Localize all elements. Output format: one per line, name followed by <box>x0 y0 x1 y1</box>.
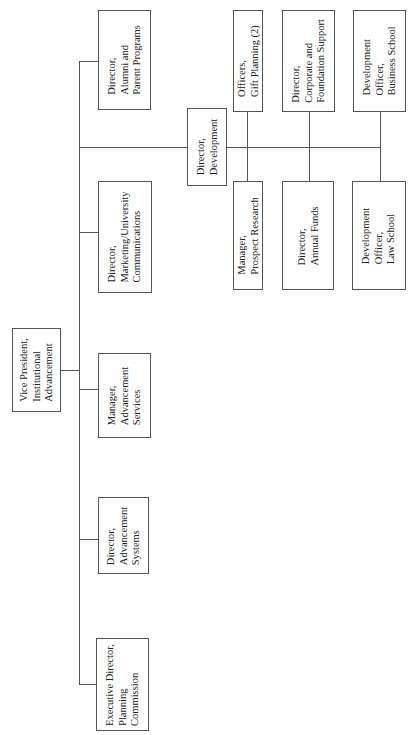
dev-vert-2 <box>309 112 310 182</box>
box-vice-president: Vice President, Institutional Advancemen… <box>12 328 61 412</box>
connector-marketing <box>79 232 98 233</box>
dev-horizontal <box>227 147 368 148</box>
box-director-development: Director, Development <box>187 108 227 186</box>
box-advancement-systems: Director, Advancement Systems <box>98 497 149 574</box>
box-business-school: Development Officer, Business School <box>353 10 406 112</box>
box-alumni-parent-programs: Director, Alumni and Parent Programs <box>98 10 151 110</box>
connector-advsvc <box>79 389 98 390</box>
box-law-school: Development Officer, Law School <box>352 181 406 290</box>
dev-horizontal-ext <box>368 147 380 148</box>
connector-alumni <box>79 61 98 62</box>
connector-advsys <box>79 539 98 540</box>
box-corporate-foundation: Director, Corporate and Foundation Suppo… <box>282 10 335 112</box>
box-prospect-research: Manager, Prospect Research <box>233 181 263 290</box>
main-trunk <box>79 61 80 685</box>
vp-connector <box>61 370 79 371</box>
connector-development <box>79 147 187 148</box>
box-advancement-services: Manager, Advancement Services <box>98 353 151 438</box>
vp-label: Vice President, Institutional Advancemen… <box>18 338 56 402</box>
box-gift-planning: Officers, Gift Planning (2) <box>233 10 263 112</box>
dev-vert-1 <box>247 112 248 182</box>
box-annual-funds: Director, Annual Funds <box>282 181 334 290</box>
dev-vert-3 <box>380 112 381 182</box>
box-marketing-communications: Director, Marketing/University Communica… <box>98 181 152 293</box>
box-executive-director-planning: Executive Director, Planning Commission <box>96 638 149 731</box>
